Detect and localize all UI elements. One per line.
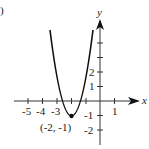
y-axis-label: y bbox=[96, 6, 102, 18]
y-tick-label: 2 bbox=[89, 66, 95, 78]
x-tick-label: -4 bbox=[36, 105, 46, 117]
vertex-point bbox=[69, 114, 73, 118]
y-tick-label: -1 bbox=[84, 109, 93, 121]
vertex-label: (-2, -1) bbox=[40, 121, 71, 134]
x-axis-label: x bbox=[141, 94, 147, 106]
x-tick-label: 1 bbox=[112, 105, 118, 117]
parabola-graph: ) y x -5 -4 -3 1 2 1 -1 -2 (-2, -1) bbox=[0, 0, 149, 149]
x-tick-label: -3 bbox=[51, 105, 61, 117]
y-tick-label: -2 bbox=[84, 124, 93, 136]
part-label: ) bbox=[0, 4, 4, 17]
y-tick-label: 1 bbox=[89, 80, 95, 92]
x-tick-label: -5 bbox=[22, 105, 32, 117]
